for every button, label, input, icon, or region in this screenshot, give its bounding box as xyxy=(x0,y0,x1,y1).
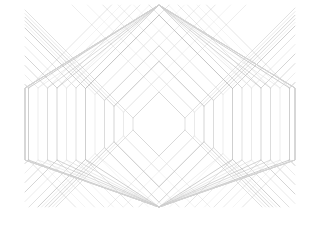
artwork-canvas xyxy=(0,0,318,233)
hexagon-line-pattern xyxy=(0,0,318,233)
